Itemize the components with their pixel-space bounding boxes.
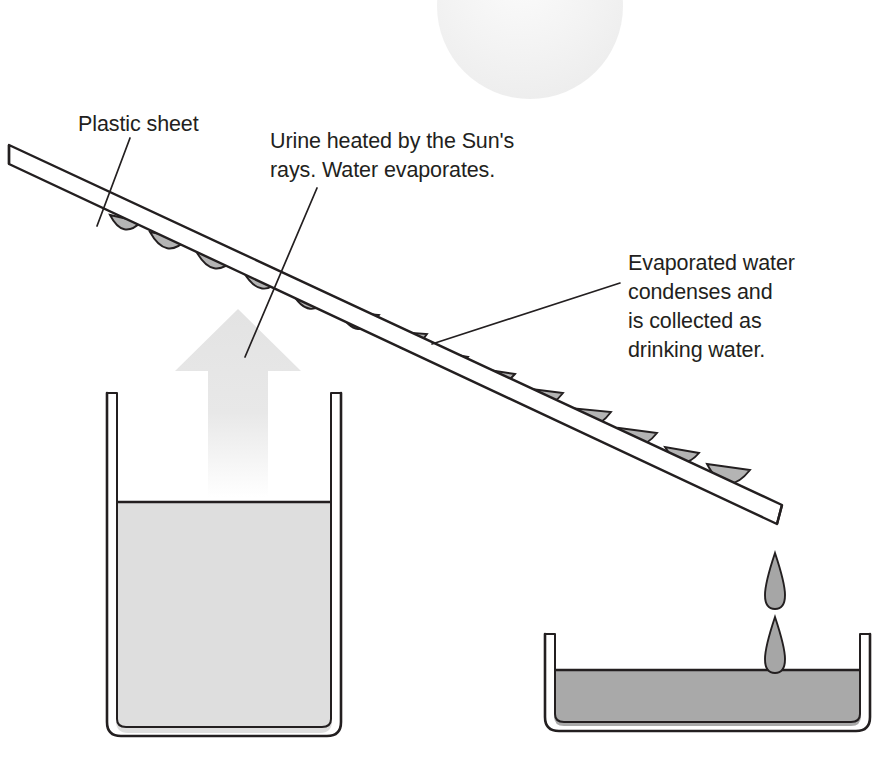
leader-line-evaporated (432, 283, 620, 344)
label-urine-heated: Urine heated by the Sun's rays. Water ev… (270, 127, 514, 185)
label-evaporated-water: Evaporated water condenses and is collec… (628, 249, 795, 365)
falling-drop-2 (765, 617, 785, 673)
drinking-water-tray (545, 634, 870, 731)
rising-vapor-arrow (175, 309, 301, 497)
falling-drops (765, 553, 785, 673)
label-plastic-sheet: Plastic sheet (78, 110, 199, 139)
diagram-canvas: Plastic sheet Urine heated by the Sun's … (0, 0, 890, 757)
sun-icon (437, 0, 623, 99)
falling-drop-1 (765, 553, 785, 609)
